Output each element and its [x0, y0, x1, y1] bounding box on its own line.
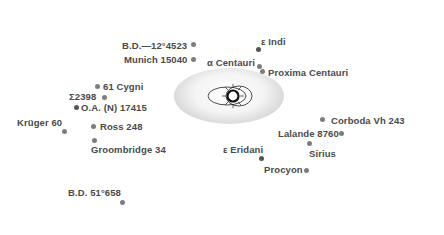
star-dot-proxima-centauri: [260, 69, 265, 74]
star-dot-bd-minus12-4523: [191, 42, 196, 47]
star-dot-corboda-vh-243: [320, 117, 325, 122]
star-dot-epsilon-indi: [256, 47, 261, 52]
star-label-kruger-60: Krüger 60: [17, 118, 62, 128]
star-label-bd-51-658: B.D. 51°658: [68, 188, 121, 198]
star-label-procyon: Procyon: [264, 165, 303, 175]
star-dot-groombridge-34: [92, 138, 97, 143]
star-label-epsilon-indi: ε Indi: [261, 37, 286, 47]
star-label-bd-minus12-4523: B.D.—12°4523: [122, 41, 187, 51]
nearest-stars-diagram: B.D.—12°4523 Munich 15040 ε Indi α Centa…: [0, 0, 444, 235]
star-dot-61-cygni: [95, 84, 100, 89]
star-label-ross-248: Ross 248: [100, 122, 143, 132]
star-dot-sirius: [307, 141, 312, 146]
star-label-alpha-centauri: α Centauri: [207, 58, 255, 68]
star-label-groombridge-34: Groombridge 34: [91, 145, 166, 155]
star-dot-lalande-8760: [339, 131, 344, 136]
star-dot-oa-17415: [74, 105, 79, 110]
star-dot-bd-51-658: [120, 200, 125, 205]
star-label-epsilon-eridani: ε Eridani: [223, 145, 263, 155]
star-label-proxima-centauri: Proxima Centauri: [268, 68, 348, 78]
star-label-sigma-2398: Σ2398: [69, 92, 96, 102]
star-label-munich-15040: Munich 15040: [124, 55, 188, 65]
star-dot-procyon: [304, 168, 309, 173]
star-label-corboda-vh-243: Corboda Vh 243: [331, 116, 405, 126]
star-dot-epsilon-eridani: [259, 156, 264, 161]
sun-icon: [203, 79, 263, 113]
star-dot-kruger-60: [62, 129, 67, 134]
star-dot-sigma-2398: [102, 95, 107, 100]
star-label-sirius: Sirius: [309, 149, 336, 159]
star-dot-munich-15040: [191, 57, 196, 62]
star-dot-ross-248: [91, 124, 96, 129]
star-label-61-cygni: 61 Cygni: [103, 82, 143, 92]
star-label-oa-17415: O.A. (N) 17415: [81, 103, 147, 113]
star-label-lalande-8760: Lalande 8760: [278, 129, 339, 139]
